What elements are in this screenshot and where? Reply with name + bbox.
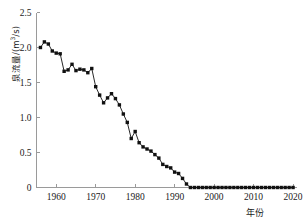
axis-ticks	[37, 13, 294, 188]
series-marker	[90, 67, 93, 70]
series-marker	[122, 112, 125, 115]
series-marker	[157, 156, 160, 159]
y-axis-title-unit: /s)	[11, 26, 21, 37]
series-marker	[193, 186, 196, 189]
series-marker	[220, 186, 223, 189]
series-marker	[216, 186, 219, 189]
series-marker	[197, 186, 200, 189]
series-marker	[86, 71, 89, 74]
series-marker	[169, 166, 172, 169]
series-marker	[224, 186, 227, 189]
series-marker	[228, 186, 231, 189]
series-marker	[244, 186, 247, 189]
y-tick-label: 1.5	[20, 78, 32, 88]
series-marker	[260, 186, 263, 189]
series-marker	[185, 182, 188, 185]
x-tick-label: 1990	[165, 192, 184, 202]
series-marker	[201, 186, 204, 189]
series-marker	[78, 68, 81, 71]
y-axis-title-name: 泉流量	[11, 55, 21, 82]
x-tick-label: 1980	[126, 192, 145, 202]
series-marker	[47, 42, 50, 45]
series-marker	[66, 68, 69, 71]
y-tick-label: 2.0	[20, 43, 32, 53]
series-marker	[70, 63, 73, 66]
series-marker	[177, 172, 180, 175]
series-marker	[208, 186, 211, 189]
series-marker	[145, 147, 148, 150]
series-marker	[74, 69, 77, 72]
series-marker	[130, 137, 133, 140]
series-marker	[106, 96, 109, 99]
x-tick-label: 2020	[284, 192, 303, 202]
series-marker	[240, 186, 243, 189]
x-tick-label: 2010	[244, 192, 263, 202]
series-marker	[141, 145, 144, 148]
series-marker	[43, 40, 46, 43]
series-marker	[161, 163, 164, 166]
series-marker	[272, 186, 275, 189]
axis-lines	[37, 13, 298, 188]
series-marker	[110, 92, 113, 95]
series-marker	[287, 186, 290, 189]
y-tick-label: 1.0	[20, 113, 32, 123]
y-axis-title-sep: /(m	[11, 40, 21, 54]
chart-figure: 00.51.01.52.02.5196019701980199020002010…	[0, 0, 307, 223]
series-marker	[153, 153, 156, 156]
series-marker	[181, 177, 184, 180]
series-marker	[133, 130, 136, 133]
y-tick-label: 0.5	[20, 148, 32, 158]
series-marker	[62, 70, 65, 73]
x-axis-title: 年份	[246, 206, 264, 219]
y-tick-label: 0	[27, 183, 32, 193]
series-marker	[264, 186, 267, 189]
series-marker	[212, 186, 215, 189]
series-marker	[58, 52, 61, 55]
y-axis-title: 泉流量/(m3/s)	[9, 6, 21, 102]
series-marker	[55, 51, 58, 54]
series-marker	[126, 121, 129, 124]
series-marker	[276, 186, 279, 189]
series-marker	[39, 46, 42, 49]
series-marker	[114, 97, 117, 100]
series-marker	[102, 101, 105, 104]
x-tick-label: 2000	[205, 192, 224, 202]
series-marker	[189, 186, 192, 189]
series-marker	[232, 186, 235, 189]
series-marker	[291, 186, 294, 189]
series-marker	[205, 186, 208, 189]
series-marker	[283, 186, 286, 189]
series-marker	[236, 186, 239, 189]
x-tick-label: 1960	[47, 192, 66, 202]
series-marker	[280, 186, 283, 189]
series-marker	[98, 93, 101, 96]
y-tick-label: 2.5	[20, 8, 32, 18]
series-marker	[248, 186, 251, 189]
series-marker	[252, 186, 255, 189]
series-marker	[149, 149, 152, 152]
series-marker	[165, 165, 168, 168]
series-marker	[82, 68, 85, 71]
series-marker	[137, 141, 140, 144]
x-tick-label: 1970	[86, 192, 105, 202]
y-axis-title-exponent: 3	[9, 37, 16, 41]
series-marker	[268, 186, 271, 189]
series-marker	[94, 85, 97, 88]
spring-discharge-line-chart: 00.51.01.52.02.5196019701980199020002010…	[0, 0, 307, 223]
series-marker	[51, 49, 54, 52]
series-marker	[256, 186, 259, 189]
series-markers	[39, 40, 295, 189]
series-marker	[118, 103, 121, 106]
series-marker	[173, 170, 176, 173]
axis-tick-labels: 00.51.01.52.02.5196019701980199020002010…	[20, 8, 303, 202]
